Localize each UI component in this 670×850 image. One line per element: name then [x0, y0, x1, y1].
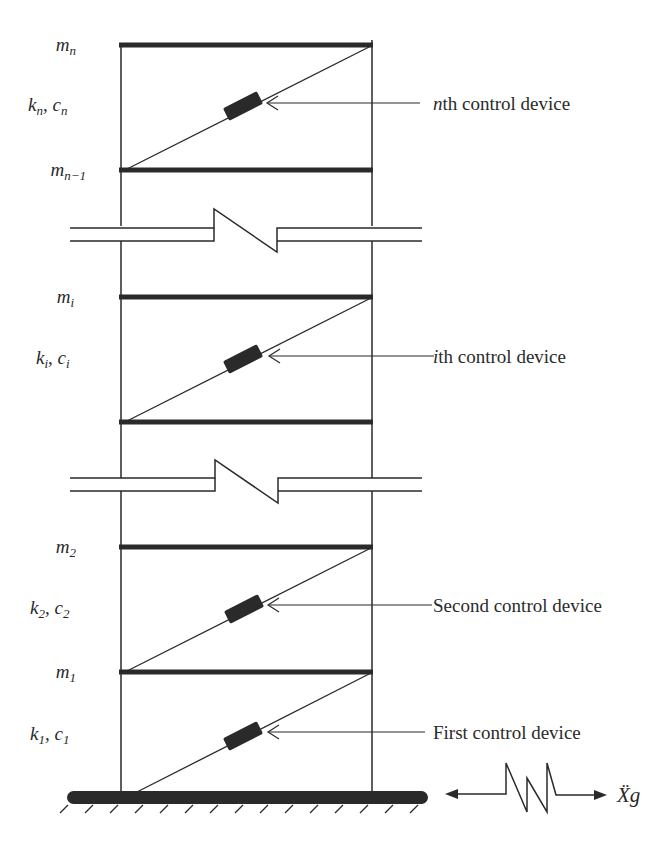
leader-arrow-1: [268, 725, 425, 739]
leader-arrow-n: [267, 96, 420, 110]
control-device-n: [223, 91, 263, 121]
device-label-2: Second control device: [433, 596, 602, 615]
story-label-i: ki, ci: [36, 348, 70, 370]
ground-hatch: [60, 805, 418, 813]
control-device-2: [224, 594, 264, 624]
story-label-1: k1, c1: [30, 724, 69, 746]
mass-label-m2: m2: [6, 537, 76, 559]
ground-excitation-symbol: [455, 763, 600, 812]
break-symbol-lower: [70, 460, 422, 503]
leader-arrow-2: [268, 598, 432, 612]
break-symbol-upper: [70, 209, 422, 252]
arrowhead-left: [445, 789, 458, 799]
story-label-2: k2, c2: [30, 598, 69, 620]
leader-arrow-i: [269, 349, 434, 363]
control-device-i: [223, 344, 263, 374]
arrowhead-right: [594, 790, 607, 800]
ground-acceleration-label: Ẍg: [617, 785, 640, 806]
mass-label-m1: m1: [6, 662, 76, 684]
control-device-1: [223, 721, 263, 751]
mass-label-mn-1: mn−1: [16, 160, 86, 182]
device-label-i: ith control device: [433, 347, 566, 366]
mass-label-mn: mn: [6, 35, 76, 57]
device-label-1: First control device: [433, 723, 581, 742]
story-label-n: kn, cn: [28, 95, 67, 117]
device-label-n: nth control device: [433, 94, 570, 113]
ground-base: [67, 791, 428, 804]
mass-label-mi: mi: [4, 287, 74, 309]
